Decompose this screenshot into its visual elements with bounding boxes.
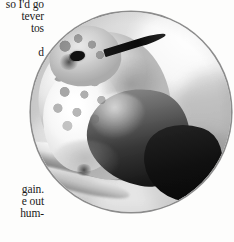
text-line: tos — [0, 22, 46, 34]
text-line: d — [0, 46, 46, 58]
bird-foot — [75, 164, 93, 176]
text-line: so I'd go — [0, 0, 46, 10]
hummingbird — [31, 12, 231, 212]
text-line: hum- — [0, 207, 46, 219]
bird-belly-shadow — [51, 140, 119, 184]
scanned-page: so I'd go tever tos d gain. e out hum- — [0, 0, 234, 242]
hummingbird-photo — [31, 12, 231, 212]
text-line: tever — [0, 10, 46, 22]
text-line: gain. — [0, 183, 46, 195]
circular-photo-frame — [31, 12, 231, 212]
body-text-top-block: so I'd go tever tos d — [0, 0, 46, 58]
body-text-bottom-block: gain. e out hum- — [0, 183, 46, 219]
text-line: e out — [0, 195, 46, 207]
